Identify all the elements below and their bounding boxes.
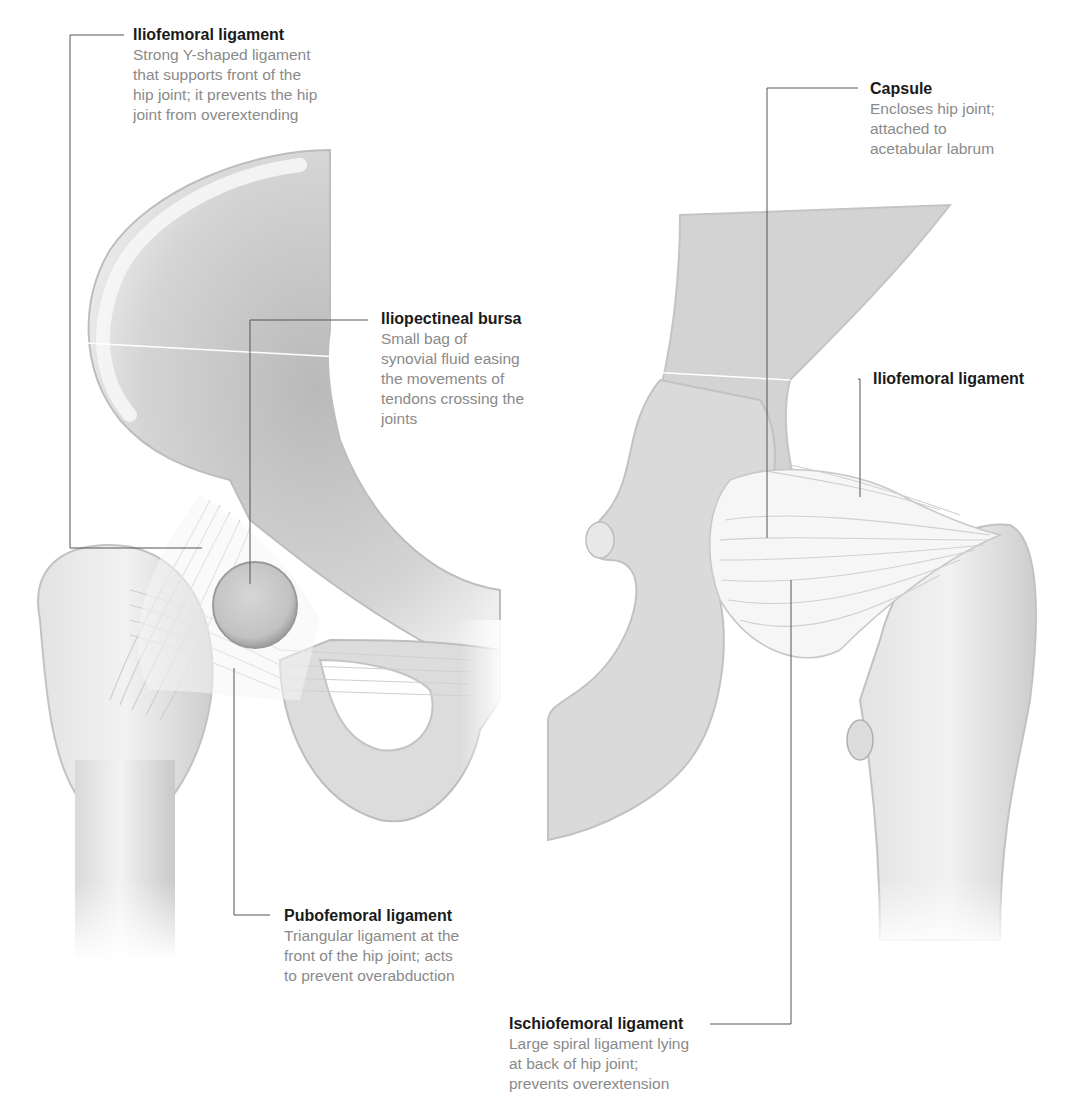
callout-description: Encloses hip joint; attached to acetabul… xyxy=(870,99,995,159)
anatomy-illustration xyxy=(0,0,1074,1115)
callout-iliofemoral-back: Iliofemoral ligament xyxy=(873,369,1024,389)
lesser-trochanter xyxy=(847,720,873,760)
front-view-hip xyxy=(38,150,505,960)
hip-ligaments-diagram: Iliofemoral ligament Strong Y-shaped lig… xyxy=(0,0,1074,1115)
callout-description: Large spiral ligament lying at back of h… xyxy=(509,1034,689,1094)
callout-capsule: Capsule Encloses hip joint; attached to … xyxy=(870,79,995,159)
callout-title: Iliofemoral ligament xyxy=(133,25,317,45)
leader-pubofemoral xyxy=(234,668,270,915)
back-view-hip xyxy=(548,205,1036,950)
callout-description: Strong Y-shaped ligament that supports f… xyxy=(133,45,317,125)
callout-ischiofemoral: Ischiofemoral ligament Large spiral liga… xyxy=(509,1014,689,1094)
callout-title: Iliopectineal bursa xyxy=(381,309,524,329)
callout-title: Pubofemoral ligament xyxy=(284,906,459,926)
callout-description: Small bag of synovial fluid easing the m… xyxy=(381,329,524,429)
callout-title: Capsule xyxy=(870,79,995,99)
callout-description: Triangular ligament at the front of the … xyxy=(284,926,459,986)
callout-title: Iliofemoral ligament xyxy=(873,369,1024,389)
callout-iliofemoral-front: Iliofemoral ligament Strong Y-shaped lig… xyxy=(133,25,317,125)
iliopectineal-bursa-shape xyxy=(213,562,297,648)
ischial-spine xyxy=(586,522,614,558)
callout-title: Ischiofemoral ligament xyxy=(509,1014,689,1034)
callout-iliopectineal-bursa: Iliopectineal bursa Small bag of synovia… xyxy=(381,309,524,429)
callout-pubofemoral: Pubofemoral ligament Triangular ligament… xyxy=(284,906,459,986)
